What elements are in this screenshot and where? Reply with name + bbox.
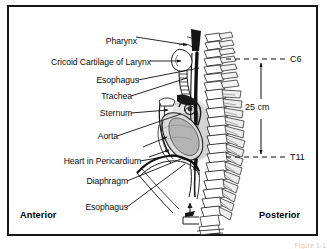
label-aorta: Aorta — [9, 131, 118, 141]
label-level-c6: C6 — [290, 54, 302, 64]
label-measurement-25cm: 25 cm — [245, 102, 270, 112]
label-esophagus-upper: Esophagus — [9, 75, 139, 85]
label-pharynx: Pharynx — [9, 36, 137, 46]
label-anterior: Anterior — [20, 210, 57, 220]
figure-caption: Figure 1-1 — [294, 242, 326, 249]
label-sternum: Sternum — [9, 108, 132, 118]
figure-frame: Pharynx Cricoid Cartilage of Larynx Esop… — [7, 5, 318, 236]
label-heart-in-pericardium: Heart in Pericardium — [9, 156, 141, 166]
label-diaphragm: Diaphragm — [9, 176, 128, 186]
label-level-t11: T11 — [290, 152, 305, 162]
label-trachea: Trachea — [9, 91, 132, 101]
label-cricoid-cartilage-of-larynx: Cricoid Cartilage of Larynx — [9, 57, 151, 67]
label-posterior: Posterior — [259, 210, 300, 220]
